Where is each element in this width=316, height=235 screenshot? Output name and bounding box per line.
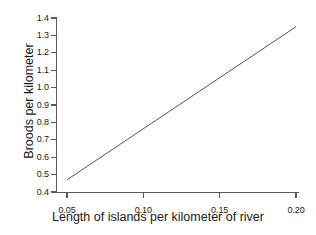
plot-line-layer bbox=[0, 0, 316, 235]
y-axis-label-container: Broods per kilometer bbox=[19, 11, 37, 191]
chart-figure: 0.40.50.60.70.80.91.01.11.21.31.4 0.050.… bbox=[0, 0, 316, 235]
regression-line bbox=[67, 27, 296, 180]
x-axis-label: Length of islands per kilometer of river bbox=[0, 210, 316, 224]
y-axis-label: Broods per kilometer bbox=[22, 43, 36, 158]
